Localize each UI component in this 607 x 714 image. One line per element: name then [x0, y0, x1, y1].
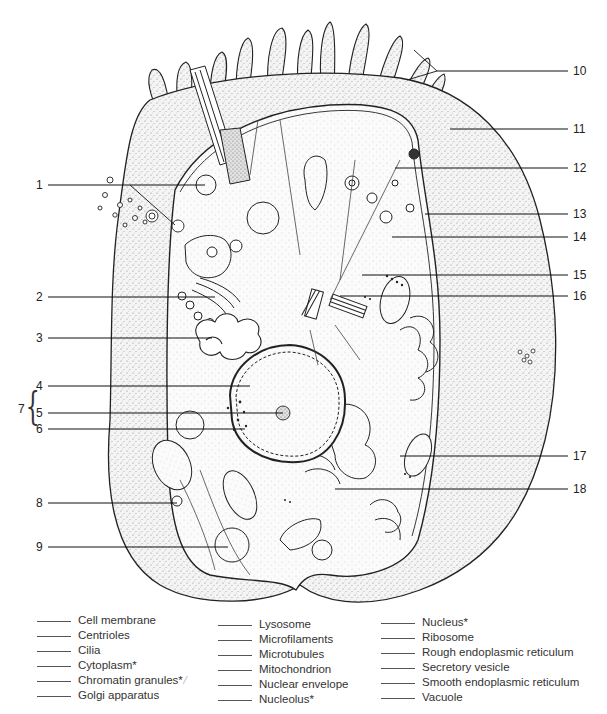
answer-blank[interactable] — [381, 668, 415, 669]
callout-14: 14 — [573, 231, 586, 243]
answer-blank[interactable] — [37, 681, 71, 682]
answer-blank[interactable] — [218, 640, 252, 641]
callout-10: 10 — [573, 65, 586, 77]
word-bank-item: Nuclear envelope — [218, 677, 349, 692]
answer-blank[interactable] — [37, 621, 71, 622]
word-bank-column-1: Cell membrane Centrioles Cilia Cytoplasm… — [37, 613, 187, 703]
word-bank-item: Nucleus* — [381, 615, 579, 630]
answer-blank[interactable] — [37, 636, 71, 637]
answer-blank[interactable] — [37, 651, 71, 652]
answer-blank[interactable] — [218, 700, 252, 701]
word-bank-item: Secretory vesicle — [381, 660, 579, 675]
word-bank-item: Microtubules — [218, 647, 349, 662]
checkmark-icon: ⁄ — [185, 675, 187, 686]
word-bank-item: Ribosome — [381, 630, 579, 645]
smooth-er — [196, 314, 261, 360]
secretory-vesicle-at-membrane — [409, 149, 419, 159]
word-bank-column-3: Nucleus* Ribosome Rough endoplasmic reti… — [381, 615, 579, 705]
word-bank-item: Mitochondrion — [218, 662, 349, 677]
word-bank-item: Centrioles — [37, 628, 187, 643]
callout-1: 1 — [36, 179, 43, 191]
answer-blank[interactable] — [37, 666, 71, 667]
word-bank: Cell membrane Centrioles Cilia Cytoplasm… — [0, 613, 607, 713]
word-bank-item: Cell membrane — [37, 613, 187, 628]
answer-blank[interactable] — [218, 685, 252, 686]
callout-9: 9 — [36, 541, 43, 553]
answer-blank[interactable] — [218, 655, 252, 656]
word-bank-item: Chromatin granules*⁄ — [37, 673, 187, 688]
answer-blank[interactable] — [218, 670, 252, 671]
word-bank-column-2: Lysosome Microfilaments Microtubules Mit… — [218, 617, 349, 707]
word-bank-item: Vacuole — [381, 690, 579, 705]
answer-blank[interactable] — [381, 683, 415, 684]
callout-11: 11 — [573, 123, 585, 135]
word-bank-item: Cytoplasm* — [37, 658, 187, 673]
answer-blank[interactable] — [218, 625, 252, 626]
group-brace: { — [26, 385, 40, 425]
word-bank-item: Cilia — [37, 643, 187, 658]
answer-blank[interactable] — [381, 698, 415, 699]
word-bank-item: Microfilaments — [218, 632, 349, 647]
word-bank-item: Golgi apparatus — [37, 688, 187, 703]
callout-12: 12 — [573, 162, 586, 174]
callout-17: 17 — [573, 450, 586, 462]
answer-blank[interactable] — [381, 653, 415, 654]
callout-3: 3 — [36, 332, 43, 344]
word-bank-item: Rough endoplasmic reticulum — [381, 645, 579, 660]
callout-8: 8 — [36, 497, 43, 509]
word-bank-item: Nucleolus* — [218, 692, 349, 707]
nucleus — [227, 345, 345, 462]
cell-diagram — [0, 0, 607, 610]
callout-7: 7 — [18, 403, 25, 415]
word-bank-item: Lysosome — [218, 617, 349, 632]
answer-blank[interactable] — [381, 623, 415, 624]
callout-13: 13 — [573, 208, 586, 220]
callout-15: 15 — [573, 269, 586, 281]
callout-16: 16 — [573, 290, 586, 302]
word-bank-item: Smooth endoplasmic reticulum — [381, 675, 579, 690]
answer-blank[interactable] — [37, 696, 71, 697]
callout-18: 18 — [573, 483, 586, 495]
callout-2: 2 — [36, 291, 43, 303]
answer-blank[interactable] — [381, 638, 415, 639]
